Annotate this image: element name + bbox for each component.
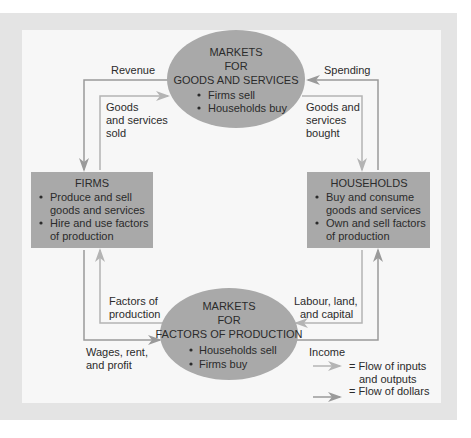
households-bullet-2-line-2: of production xyxy=(326,230,390,242)
goods-bought-label-2: services xyxy=(306,114,347,126)
households-bullet-1-line-1: Buy and consume xyxy=(326,191,414,203)
bullet-icon xyxy=(189,362,192,365)
bullet-icon xyxy=(315,221,318,224)
goods-sold-label-2: and services xyxy=(106,114,168,126)
wages-label-1: Wages, rent, xyxy=(86,346,148,358)
households-bullet-2-line-1: Own and sell factors xyxy=(326,217,426,229)
firms-node: FIRMS Produce and sell goods and service… xyxy=(31,172,153,248)
factor-market-title-3: FACTORS OF PRODUCTION xyxy=(155,328,302,340)
wages-label-2: and profit xyxy=(86,359,132,371)
firms-title: FIRMS xyxy=(75,177,109,189)
factor-market-bullet-2: Firms buy xyxy=(199,358,248,370)
goods-market-title-3: GOODS AND SERVICES xyxy=(173,74,298,86)
legend: = Flow of inputs and outputs = Flow of d… xyxy=(313,360,430,397)
spending-label: Spending xyxy=(324,64,371,76)
goods-market-title-2: FOR xyxy=(224,60,247,72)
labour-label-2: and capital xyxy=(300,308,353,320)
factors-label-2: production xyxy=(109,308,160,320)
factor-market-title-2: FOR xyxy=(217,314,240,326)
goods-market-title-1: MARKETS xyxy=(209,46,262,58)
households-title: HOUSEHOLDS xyxy=(330,177,407,189)
legend-goods-label-1: = Flow of inputs xyxy=(349,360,427,372)
firms-bullet-1-line-1: Produce and sell xyxy=(50,191,132,203)
legend-goods-label-2: and outputs xyxy=(359,373,417,385)
bullet-icon xyxy=(39,221,42,224)
firms-bullet-2-line-2: of production xyxy=(50,230,114,242)
goods-sold-label-1: Goods xyxy=(106,101,139,113)
factor-market-node: MARKETS FOR FACTORS OF PRODUCTION Househ… xyxy=(155,288,302,380)
bullet-icon xyxy=(315,195,318,198)
factors-label-1: Factors of xyxy=(109,295,159,307)
goods-bought-label-1: Goods and xyxy=(306,101,360,113)
income-label: Income xyxy=(309,346,345,358)
circular-flow-diagram: MARKETS FOR GOODS AND SERVICES Firms sel… xyxy=(0,0,471,438)
goods-sold-label-3: sold xyxy=(106,127,126,139)
goods-market-node: MARKETS FOR GOODS AND SERVICES Firms sel… xyxy=(167,30,305,128)
bullet-icon xyxy=(197,106,200,109)
households-bullet-1-line-2: goods and services xyxy=(326,204,421,216)
firms-bullet-1-line-2: goods and services xyxy=(50,204,145,216)
revenue-label: Revenue xyxy=(111,64,155,76)
goods-bought-label-3: bought xyxy=(306,127,340,139)
labour-label-1: Labour, land, xyxy=(294,295,358,307)
bullet-icon xyxy=(189,348,192,351)
legend-dollars-label: = Flow of dollars xyxy=(349,385,430,397)
bullet-icon xyxy=(39,195,42,198)
households-node: HOUSEHOLDS Buy and consume goods and ser… xyxy=(307,172,430,248)
factor-market-bullet-1: Households sell xyxy=(199,344,277,356)
goods-market-bullet-2: Households buy xyxy=(208,102,287,114)
firms-bullet-2-line-1: Hire and use factors xyxy=(50,217,149,229)
bullet-icon xyxy=(197,93,200,96)
goods-market-bullet-1: Firms sell xyxy=(208,89,255,101)
factor-market-title-1: MARKETS xyxy=(202,300,255,312)
